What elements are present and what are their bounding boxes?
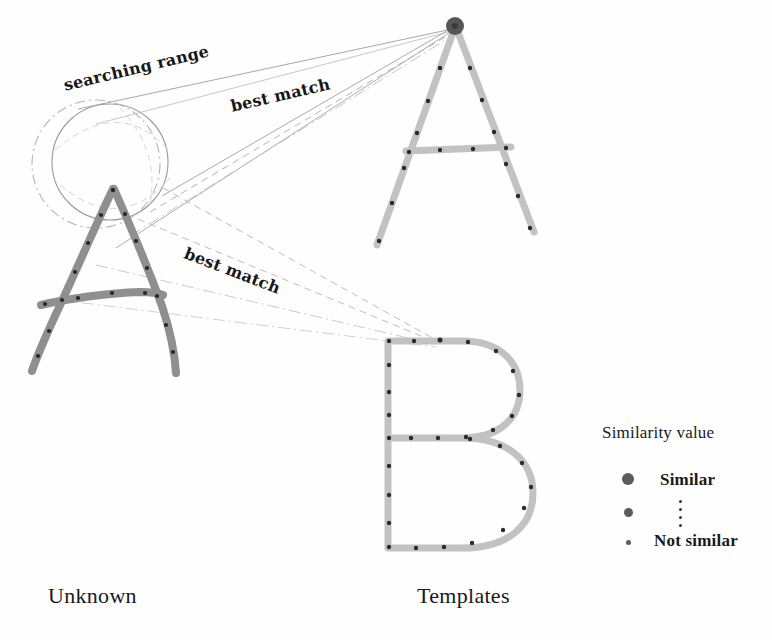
- searching-range-leader-line-lower: [96, 31, 452, 124]
- template-letter-a: [377, 17, 534, 245]
- searching-range-inner-arc-1: [55, 123, 168, 151]
- template-a-crossbar-stroke: [406, 147, 511, 151]
- searching-range-inner-arc-3: [120, 108, 152, 205]
- template-letter-b: [387, 338, 533, 551]
- figure-canvas: searching range best match best match Un…: [0, 0, 772, 640]
- searching-range-circle-dashed: [32, 100, 160, 228]
- legend-label-similar: Similar: [660, 470, 715, 490]
- unknown-a-right-stroke: [114, 189, 176, 373]
- legend-dot-similar: [622, 473, 634, 485]
- legend-label-not-similar: Not similar: [654, 531, 738, 551]
- template-a-feature-points: [377, 66, 532, 243]
- template-a-right-stroke: [456, 27, 534, 232]
- legend-ellipsis-vertical: [679, 500, 682, 532]
- legend-dot-not-similar: [626, 540, 631, 545]
- legend-dot-mid: [624, 508, 633, 517]
- unknown-letter-a: [32, 188, 176, 373]
- template-a-similarity-highlight-core: [452, 23, 458, 29]
- template-a-left-stroke: [377, 27, 455, 245]
- legend-title: Similarity value: [602, 423, 714, 443]
- templates-caption: Templates: [417, 583, 510, 609]
- connector-dashed-best-match-bottom: [138, 219, 438, 343]
- unknown-caption: Unknown: [48, 583, 137, 609]
- template-b-feature-points: [387, 338, 533, 551]
- connector-dashdot-unknown-to-b-2: [60, 300, 436, 347]
